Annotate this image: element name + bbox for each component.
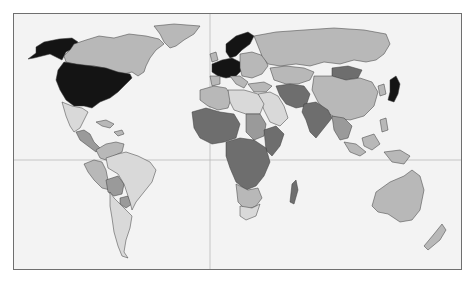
region-new-guinea[interactable] (384, 150, 410, 164)
region-western-europe[interactable] (212, 58, 242, 78)
region-philippines[interactable] (380, 118, 388, 132)
region-borneo[interactable] (362, 134, 380, 150)
region-turkey[interactable] (248, 82, 272, 92)
region-italy-balkans[interactable] (230, 76, 248, 88)
region-japan[interactable] (388, 76, 400, 102)
region-central-africa[interactable] (226, 138, 270, 190)
region-caribbean[interactable] (96, 120, 114, 128)
world-map-frame (13, 13, 462, 270)
region-indonesia[interactable] (344, 142, 366, 156)
region-new-zealand[interactable] (424, 224, 446, 250)
region-sudan[interactable] (246, 114, 266, 140)
region-caribbean-2[interactable] (114, 130, 124, 136)
region-korea[interactable] (378, 84, 386, 96)
region-uk[interactable] (210, 52, 218, 62)
region-west-africa[interactable] (192, 108, 240, 144)
region-morocco-algeria[interactable] (200, 86, 232, 110)
region-north-africa[interactable] (228, 90, 264, 114)
region-iberia[interactable] (210, 76, 220, 86)
world-choropleth-map (14, 14, 462, 270)
region-australia[interactable] (372, 170, 424, 222)
region-madagascar[interactable] (290, 180, 298, 204)
region-russia[interactable] (254, 28, 390, 66)
region-peru-ecuador[interactable] (84, 160, 110, 190)
region-central-america[interactable] (76, 130, 100, 152)
region-mexico[interactable] (62, 102, 88, 132)
region-central-asia[interactable] (270, 66, 314, 84)
